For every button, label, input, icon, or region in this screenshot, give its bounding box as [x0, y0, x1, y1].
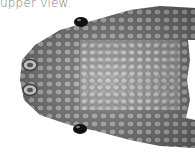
- lizard-head-illustration: [0, 0, 195, 160]
- eye-lower: [73, 124, 87, 134]
- figure: [0, 0, 195, 160]
- nostril-upper: [23, 60, 37, 71]
- nostril-lower: [23, 85, 37, 96]
- eye-upper: [74, 17, 88, 27]
- figure-caption: upper view.: [0, 0, 72, 10]
